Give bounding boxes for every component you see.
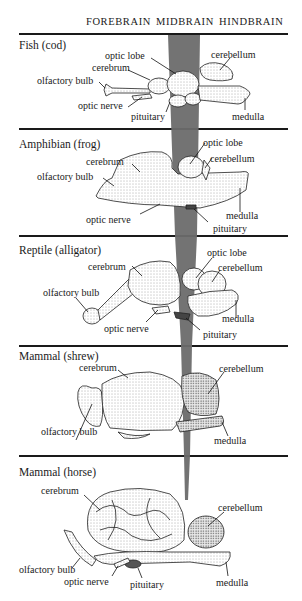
label-cerebrum: cerebrum: [86, 157, 124, 167]
label-cerebellum: cerebellum: [219, 364, 263, 374]
label-optic-lobe: optic lobe: [203, 138, 243, 148]
section-title-horse: Mammal (horse): [19, 466, 96, 478]
label-cerebrum: cerebrum: [79, 363, 117, 373]
section-title-shrew: Mammal (shrew): [19, 350, 99, 362]
label-pituitary: pituitary: [131, 112, 165, 122]
label-optic-nerve: optic nerve: [86, 215, 131, 225]
label-olfactory-bulb: olfactory bulb: [43, 288, 99, 298]
section-title-alligator: Reptile (alligator): [19, 244, 101, 256]
label-medulla: medulla: [226, 211, 258, 221]
label-cerebrum: cerebrum: [41, 486, 79, 496]
shrew-brain-drawing: [78, 372, 224, 439]
label-pituitary: pituitary: [213, 224, 247, 234]
label-medulla: medulla: [216, 578, 248, 588]
label-optic-lobe: optic lobe: [105, 51, 145, 61]
label-cerebellum: cerebellum: [210, 154, 254, 164]
label-cerebellum: cerebellum: [218, 263, 262, 273]
label-olfactory-bulb: olfactory bulb: [19, 565, 75, 575]
label-olfactory-bulb: olfactory bulb: [37, 172, 93, 182]
label-medulla: medulla: [214, 436, 246, 446]
label-optic-lobe: optic lobe: [207, 248, 247, 258]
label-medulla: medulla: [232, 112, 264, 122]
label-pituitary: pituitary: [203, 330, 237, 340]
label-olfactory-bulb: olfactory bulb: [41, 427, 97, 437]
label-cerebrum: cerebrum: [92, 63, 130, 73]
horse-brain-drawing: [64, 488, 230, 568]
section-title-frog: Amphibian (frog): [19, 138, 100, 150]
label-optic-nerve: optic nerve: [104, 324, 149, 334]
label-cerebrum: cerebrum: [88, 262, 126, 272]
section-title-fish: Fish (cod): [19, 39, 66, 51]
label-optic-nerve: optic nerve: [78, 101, 123, 111]
label-cerebellum: cerebellum: [218, 503, 262, 513]
label-medulla: medulla: [222, 314, 254, 324]
label-pituitary: pituitary: [130, 580, 164, 590]
label-olfactory-bulb: olfactory bulb: [37, 76, 93, 86]
label-optic-nerve: optic nerve: [64, 577, 109, 587]
label-cerebellum: cerebellum: [211, 50, 255, 60]
